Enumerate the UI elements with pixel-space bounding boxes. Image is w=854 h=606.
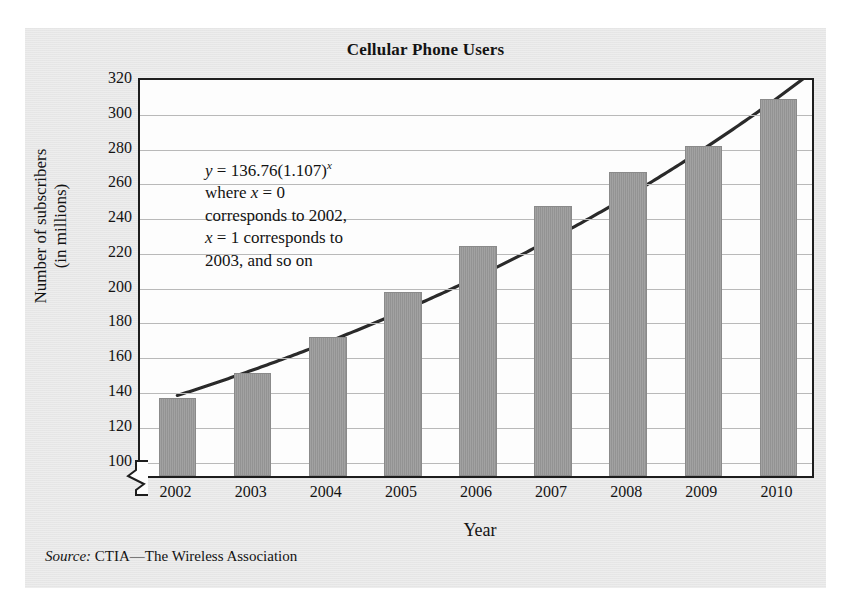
y-axis-tick [138,289,139,290]
bar-texture [460,247,496,475]
y-axis-tick-label: 300 [86,104,132,122]
bar [685,146,723,476]
y-axis-tick-label: 220 [86,243,132,261]
y-axis-tick-label: 200 [86,278,132,296]
plot-area [138,78,814,478]
y-axis-tick [138,184,139,185]
bar-texture [686,147,722,475]
bar [384,292,422,476]
y-axis-tick-label: 280 [86,139,132,157]
y-axis-tick [138,115,139,116]
annotation-line2-rest: = 0 [258,183,285,202]
bar-texture [761,100,797,475]
y-axis-tick [138,358,139,359]
source-label: Source: [45,548,91,564]
annotation-where: where [205,183,251,202]
equation-line: y = 136.76(1.107)x [205,158,455,182]
y-axis-tick-label: 180 [86,312,132,330]
y-axis-tick [138,150,139,151]
y-axis-tick-label: 260 [86,173,132,191]
bar [309,337,347,476]
y-axis-title: Number of subscribers (in millions) [31,106,71,346]
equation-body: = 136.76(1.107) [213,161,327,180]
equation-exponent: x [327,159,332,171]
annotation-line4-rest: = 1 corresponds to [213,228,343,247]
x-axis-tick-label: 2008 [591,483,661,501]
bar-texture [160,399,196,475]
bar [234,373,272,476]
bar [609,172,647,476]
bar [159,398,197,476]
bar [760,99,798,476]
figure-panel: Cellular Phone Users Number of subscribe… [25,28,826,588]
bar [459,246,497,476]
y-axis-tick [138,428,139,429]
x-axis-tick-label: 2002 [141,483,211,501]
y-axis-tick-label: 120 [86,417,132,435]
chart-title: Cellular Phone Users [25,40,826,60]
annotation-line-3: corresponds to 2002, [205,205,455,228]
y-axis-tick-labels: 100120140160180200220240260280300320 [82,78,132,478]
y-axis-tick [138,254,139,255]
bar-texture [235,374,271,475]
y-axis-tick [138,80,139,81]
annotation-line-2: where x = 0 [205,182,455,205]
bar [534,206,572,476]
x-axis-tick-label: 2010 [741,483,811,501]
equation-annotation: y = 136.76(1.107)x where x = 0 correspon… [205,158,455,273]
y-axis-tick [138,323,139,324]
y-axis-tick [138,393,139,394]
equation-variable-y: y [205,161,213,180]
x-axis-tick-label: 2003 [216,483,286,501]
y-axis-tick-label: 140 [86,382,132,400]
x-axis-tick-label: 2004 [291,483,361,501]
annotation-line-4: x = 1 corresponds to [205,227,455,250]
annotation-var-x-2: x [205,228,213,247]
x-axis-tick-label: 2006 [441,483,511,501]
bar-texture [310,338,346,475]
y-axis-tick [138,219,139,220]
gridline [140,115,812,116]
bar-texture [610,173,646,475]
x-axis-tick-label: 2009 [666,483,736,501]
source-text: CTIA—The Wireless Association [91,548,297,564]
x-axis-tick-label: 2005 [366,483,436,501]
bar-texture [385,293,421,475]
y-axis-title-line2: (in millions) [51,106,71,346]
y-axis-title-line1: Number of subscribers [31,106,51,346]
x-axis-tick-label: 2007 [516,483,586,501]
bar-texture [535,207,571,475]
y-axis-tick-label: 160 [86,347,132,365]
y-axis-tick-label: 320 [86,69,132,87]
annotation-line-5: 2003, and so on [205,250,455,273]
x-axis-tick-labels: 200220032004200520062007200820092010 [138,483,814,509]
source-caption: Source: CTIA—The Wireless Association [45,548,297,565]
y-axis-tick-label: 240 [86,208,132,226]
x-axis-title: Year [130,520,830,541]
